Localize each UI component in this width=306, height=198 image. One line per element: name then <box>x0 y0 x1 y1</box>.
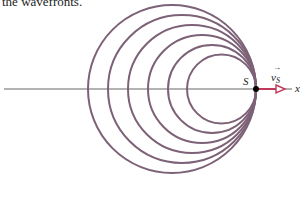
axis-label: x <box>294 82 300 94</box>
arrowhead-icon <box>276 85 285 93</box>
velocity-label: vS <box>271 71 280 85</box>
source-point <box>253 86 259 92</box>
doppler-wavefront-diagram: S vS → x <box>0 0 306 198</box>
source-label: S <box>243 75 249 87</box>
vector-arrow-icon: → <box>273 63 281 72</box>
